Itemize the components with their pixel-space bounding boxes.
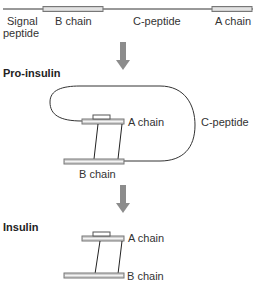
disulfide-bond <box>94 124 98 159</box>
c-peptide-label: C-peptide <box>201 116 249 128</box>
preproinsulin-chain <box>3 7 253 12</box>
insulin-title: Insulin <box>3 221 38 233</box>
disulfide-bond <box>118 124 122 159</box>
disulfide-bond <box>95 241 100 274</box>
intrachain-disulfide <box>93 232 110 236</box>
down-arrow-icon <box>116 185 130 213</box>
signal-peptide-label: Signal <box>7 15 38 27</box>
insulin-structure <box>64 232 124 278</box>
intrachain-disulfide <box>93 115 110 119</box>
a-chain-label: A chain <box>128 116 164 128</box>
b-chain-label: B chain <box>127 270 164 282</box>
disulfide-bond <box>118 241 122 274</box>
proinsulin-title: Pro-insulin <box>3 67 60 79</box>
signal-peptide-label-line2: peptide <box>3 27 39 39</box>
a-chain-label: A chain <box>128 232 164 244</box>
b-chain-label: B chain <box>55 15 92 27</box>
c-peptide-label: C-peptide <box>133 15 181 27</box>
down-arrow-icon <box>116 42 130 70</box>
b-chain-label: B chain <box>79 168 116 180</box>
proinsulin-structure <box>50 86 195 164</box>
a-chain-label: A chain <box>215 15 251 27</box>
